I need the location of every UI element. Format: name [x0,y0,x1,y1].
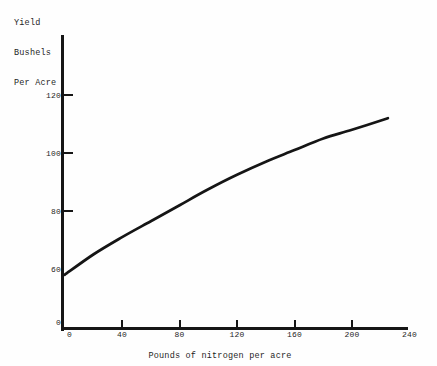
yield-nitrogen-line-chart: Yield Bushels Per Acre 12010080600040801… [0,0,437,366]
yield-response-curve [0,0,437,366]
yield-response-curve-path [65,118,388,275]
x-axis-title: Pounds of nitrogen per acre [110,351,330,361]
